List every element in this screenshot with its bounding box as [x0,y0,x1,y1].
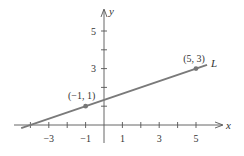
line-chart: −3−113535xy(−1, 1)(5, 3)L [0,0,244,156]
y-tick-label: 5 [91,26,96,37]
axes [14,9,223,143]
line-L [21,65,207,128]
data-point [83,104,88,109]
y-axis-label: y [108,5,114,17]
x-tick-label: 5 [194,133,199,144]
series-L [21,65,207,128]
labels: −3−113535xy(−1, 1)(5, 3)L [43,5,231,144]
x-tick-label: −1 [80,133,91,144]
point-label: (5, 3) [183,53,205,65]
point-label: (−1, 1) [68,90,95,102]
line-label: L [210,57,217,69]
x-axis-label: x [225,119,231,131]
y-tick-label: 3 [91,63,96,74]
x-tick-label: 3 [157,133,162,144]
x-tick-label: −3 [43,133,54,144]
x-tick-label: 1 [120,133,125,144]
data-point [194,66,199,71]
